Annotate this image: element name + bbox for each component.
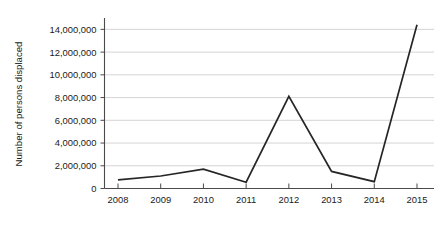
x-tick-label-2: 2010	[193, 194, 214, 205]
chart-canvas: 02,000,0004,000,0006,000,0008,000,00010,…	[0, 0, 440, 227]
y-tick-label-3: 6,000,000	[55, 115, 97, 126]
x-tick-label-7: 2015	[407, 194, 428, 205]
x-tick-label-1: 2009	[150, 194, 171, 205]
y-tick-label-2: 4,000,000	[55, 137, 97, 148]
x-tick-label-3: 2011	[236, 194, 256, 205]
x-tick-label-0: 2008	[108, 194, 129, 205]
y-tick-label-5: 10,000,000	[50, 69, 97, 80]
x-tick-label-6: 2014	[364, 194, 385, 205]
y-tick-label-7: 14,000,000	[50, 24, 97, 35]
x-tick-label-4: 2012	[278, 194, 299, 205]
y-tick-label-4: 8,000,000	[55, 92, 97, 103]
line-chart-figure: 02,000,0004,000,0006,000,0008,000,00010,…	[0, 0, 440, 227]
y-tick-label-6: 12,000,000	[50, 47, 97, 58]
x-tick-label-5: 2013	[321, 194, 342, 205]
y-axis-label: Number of persons displaced	[13, 42, 24, 167]
y-tick-label-1: 2,000,000	[55, 160, 97, 171]
y-tick-label-0: 0	[91, 183, 96, 194]
